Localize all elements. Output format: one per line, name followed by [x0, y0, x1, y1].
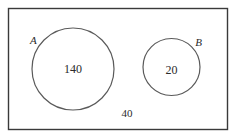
set-a-count: 140	[64, 62, 82, 76]
venn-diagram-canvas: A B 140 20 40	[0, 0, 237, 138]
venn-diagram: A B 140 20 40	[0, 0, 237, 138]
set-b-count: 20	[166, 63, 178, 77]
set-a-label: A	[29, 34, 37, 46]
set-b-label: B	[195, 36, 202, 48]
outside-count: 40	[122, 107, 134, 119]
universal-set-rectangle	[9, 9, 228, 130]
